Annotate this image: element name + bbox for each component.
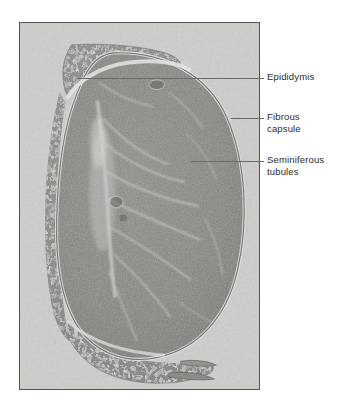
- annotation-label-epididymis: Epididymis: [267, 71, 314, 83]
- leader-line-epididymis: [78, 78, 264, 79]
- annotation-label-fibrous-capsule: Fibrous capsule: [267, 111, 301, 134]
- annotation-label-seminiferous-tubules: Seminiferous tubules: [267, 154, 324, 177]
- figure-container: Epididymis Fibrous capsule Seminiferous …: [0, 0, 348, 402]
- leader-line-seminiferous-tubules: [191, 161, 264, 162]
- leader-line-fibrous-capsule: [231, 118, 264, 119]
